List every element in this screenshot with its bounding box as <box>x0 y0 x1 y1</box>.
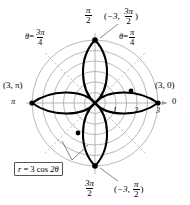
radial-tick-1: 1 <box>113 107 117 115</box>
point-label-3-pi: (3, π) <box>3 81 23 90</box>
equation-function: cos <box>37 164 48 174</box>
point-label-close-paren-a: ) <box>135 12 138 21</box>
equation-r: r <box>18 164 21 174</box>
polar-rose-figure: π 2 (−3, 3π 2 ) θ= 3π 4 θ= π 4 (3, π) π … <box>0 0 190 205</box>
marker-bottom-petal-sample <box>76 131 81 136</box>
theta-right-den: 4 <box>129 37 135 47</box>
marker-right-petal-sample <box>129 89 134 94</box>
axis-label-3pi-over-2-den: 2 <box>86 188 93 198</box>
point-label-comma-b: , <box>128 185 133 194</box>
point-label-neg3-pi-over-2: (−3, π 2 ) <box>114 180 144 199</box>
axis-label-zero-text: 0 <box>172 96 176 106</box>
point-label-comma-a: , <box>118 12 123 21</box>
point-label-neg3-a: −3 <box>107 12 118 21</box>
marker-neg3-3pi-over-2 <box>92 37 98 43</box>
equation-equals: = <box>23 164 28 174</box>
radial-tick-3: 3 <box>156 107 160 115</box>
equation-argument: 2θ <box>50 164 58 174</box>
point-label-3pi-den: 2 <box>125 16 132 26</box>
point-label-neg3-3pi-over-2: (−3, 3π 2 ) <box>104 7 138 26</box>
equation-callout-box: r = 3 cos 2θ <box>14 162 63 176</box>
theta-left-den: 4 <box>37 37 43 47</box>
marker-neg3-pi-over-2 <box>92 163 98 169</box>
point-label-3-pi-text: (3, π) <box>3 80 23 90</box>
point-label-neg3-b: −3 <box>117 185 128 194</box>
axis-label-3pi-over-2: 3π 2 <box>83 179 96 198</box>
axis-label-pi: π <box>11 97 15 106</box>
leader-neg3-3pi2 <box>100 24 118 38</box>
point-label-3-0: (3, 0) <box>155 81 175 90</box>
point-label-close-paren-b: ) <box>141 185 144 194</box>
angle-label-pi-over-4: θ= π 4 <box>119 28 136 46</box>
point-label-3-0-text: (3, 0) <box>155 80 175 90</box>
theta-equals-right: = <box>123 31 128 41</box>
theta-right-num: π <box>129 28 135 37</box>
point-label-pi-num: π <box>133 180 140 189</box>
theta-equals-left: = <box>29 31 34 41</box>
marker-3-pi <box>29 100 34 105</box>
theta-left-num: 3π <box>35 28 46 37</box>
equation-coefficient: 3 <box>30 164 34 174</box>
axis-label-pi-text: π <box>11 96 15 106</box>
axis-label-pi-over-2: π 2 <box>84 6 93 25</box>
axis-label-3pi-over-2-num: 3π <box>84 179 95 188</box>
marker-3-0 <box>155 100 160 105</box>
axis-label-pi-over-2-num: π <box>85 6 92 15</box>
axis-label-pi-over-2-den: 2 <box>85 15 92 25</box>
radial-tick-2-text: 2 <box>134 106 138 115</box>
angle-label-3pi-over-4: θ= 3π 4 <box>25 28 47 46</box>
axis-arrow-right <box>162 101 167 105</box>
radial-tick-1-text: 1 <box>113 106 117 115</box>
radial-tick-2: 2 <box>134 107 138 115</box>
point-label-3pi-num: 3π <box>123 7 134 16</box>
radial-tick-3-text: 3 <box>156 106 160 115</box>
point-label-pi-den: 2 <box>133 189 140 199</box>
leader-equation-to-curve-b <box>62 141 72 160</box>
axis-label-zero: 0 <box>172 97 176 106</box>
